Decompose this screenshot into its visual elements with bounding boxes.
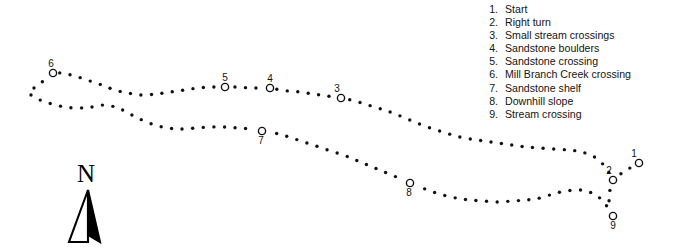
trail-dot bbox=[254, 86, 257, 89]
map-marker-label-2: 2 bbox=[601, 166, 617, 176]
trail-dot bbox=[160, 92, 163, 95]
map-legend: 1. Start 2. Right turn 3. Small stream c… bbox=[482, 3, 672, 121]
trail-dot bbox=[619, 172, 622, 175]
trail-dot bbox=[150, 93, 153, 96]
legend-item-label: Start bbox=[505, 3, 527, 16]
legend-item-number: 8. bbox=[482, 95, 498, 108]
trail-dot bbox=[579, 188, 582, 191]
trail-dot bbox=[384, 171, 387, 174]
trail-dot bbox=[583, 151, 586, 154]
trail-dot bbox=[531, 146, 534, 149]
trail-dot bbox=[244, 86, 247, 89]
legend-item: 3. Small stream crossings bbox=[482, 29, 672, 42]
trail-dot bbox=[500, 142, 503, 145]
trail-dot bbox=[111, 105, 114, 108]
legend-item: 7. Sandstone shelf bbox=[482, 82, 672, 95]
trail-dot bbox=[159, 125, 162, 128]
trail-dot bbox=[593, 155, 596, 158]
trail-dot bbox=[365, 163, 368, 166]
trail-dot bbox=[394, 175, 397, 178]
trail-dot bbox=[32, 86, 35, 89]
trail-dot bbox=[379, 107, 382, 110]
legend-item: 8. Downhill slope bbox=[482, 95, 672, 108]
map-marker-label-5: 5 bbox=[217, 73, 233, 83]
trail-dot bbox=[101, 103, 104, 106]
legend-item-number: 1. bbox=[482, 3, 498, 16]
trail-dot bbox=[233, 126, 236, 129]
trail-dot bbox=[202, 86, 205, 89]
legend-item-label: Sandstone boulders bbox=[505, 42, 599, 55]
trail-dot bbox=[548, 193, 551, 196]
legend-item-label: Right turn bbox=[505, 16, 551, 29]
trail-dot bbox=[296, 90, 299, 93]
legend-item-label: Sandstone crossing bbox=[505, 55, 598, 68]
trail-dot bbox=[140, 118, 143, 121]
trail-dot bbox=[275, 132, 278, 135]
trail-dot bbox=[607, 199, 610, 202]
trail-dot bbox=[469, 137, 472, 140]
trail-dot bbox=[130, 113, 133, 116]
legend-item-label: Small stream crossings bbox=[505, 29, 615, 42]
trail-dot bbox=[29, 93, 32, 96]
trail-dot bbox=[327, 95, 330, 98]
trail-dot bbox=[368, 104, 371, 107]
trail-dot bbox=[78, 76, 81, 79]
trail-dot bbox=[563, 148, 566, 151]
trail-dot bbox=[99, 83, 102, 86]
trail-dot bbox=[517, 199, 520, 202]
trail-dot bbox=[398, 114, 401, 117]
trail-dot bbox=[295, 138, 298, 141]
legend-item-number: 6. bbox=[482, 68, 498, 81]
trail-dot bbox=[568, 189, 571, 192]
trail-dot bbox=[453, 196, 456, 199]
map-marker-1 bbox=[635, 159, 642, 166]
trail-dot bbox=[423, 187, 426, 190]
trail-dot bbox=[527, 198, 530, 201]
trail-dot bbox=[121, 108, 124, 111]
trail-dot bbox=[325, 148, 328, 151]
trail-dot bbox=[474, 199, 477, 202]
trail-dot bbox=[589, 191, 592, 194]
trail-dot bbox=[170, 127, 173, 130]
trail-dot bbox=[108, 87, 111, 90]
legend-item: 6. Mill Branch Creek crossing bbox=[482, 68, 672, 81]
map-marker-label-7: 7 bbox=[253, 136, 269, 146]
trail-dot bbox=[139, 93, 142, 96]
trail-dot bbox=[317, 93, 320, 96]
trail-dot bbox=[69, 106, 72, 109]
legend-item: 1. Start bbox=[482, 3, 672, 16]
trail-dot bbox=[552, 147, 555, 150]
legend-item: 9. Stream crossing bbox=[482, 108, 672, 121]
trail-dot bbox=[443, 194, 446, 197]
trail-dot bbox=[506, 200, 509, 203]
trail-dot bbox=[58, 71, 61, 74]
trail-dot bbox=[305, 141, 308, 144]
trail-dot bbox=[520, 145, 523, 148]
trail-dot bbox=[49, 102, 52, 105]
trail-dot bbox=[315, 145, 318, 148]
trail-dot bbox=[485, 200, 488, 203]
trail-dot bbox=[428, 126, 431, 129]
trail-dot bbox=[39, 98, 42, 101]
map-marker-label-4: 4 bbox=[262, 74, 278, 84]
trail-dot bbox=[374, 167, 377, 170]
compass-needle-icon bbox=[62, 188, 110, 244]
legend-item: 4. Sandstone boulders bbox=[482, 42, 672, 55]
trail-dot bbox=[244, 127, 247, 130]
trail-map-figure: 1. Start 2. Right turn 3. Small stream c… bbox=[0, 0, 679, 250]
trail-dot bbox=[191, 127, 194, 130]
trail-dot bbox=[212, 125, 215, 128]
trail-dot bbox=[285, 135, 288, 138]
legend-item-label: Mill Branch Creek crossing bbox=[505, 68, 631, 81]
trail-dot bbox=[129, 92, 132, 95]
trail-dot bbox=[90, 105, 93, 108]
trail-dot bbox=[223, 125, 226, 128]
legend-item-number: 9. bbox=[482, 108, 498, 121]
trail-dot bbox=[418, 122, 421, 125]
trail-dot bbox=[41, 80, 44, 83]
trail-dot bbox=[202, 126, 205, 129]
trail-dot bbox=[458, 135, 461, 138]
north-arrow-icon: N bbox=[62, 160, 110, 246]
trail-dot bbox=[358, 101, 361, 104]
trail-dot bbox=[537, 196, 540, 199]
